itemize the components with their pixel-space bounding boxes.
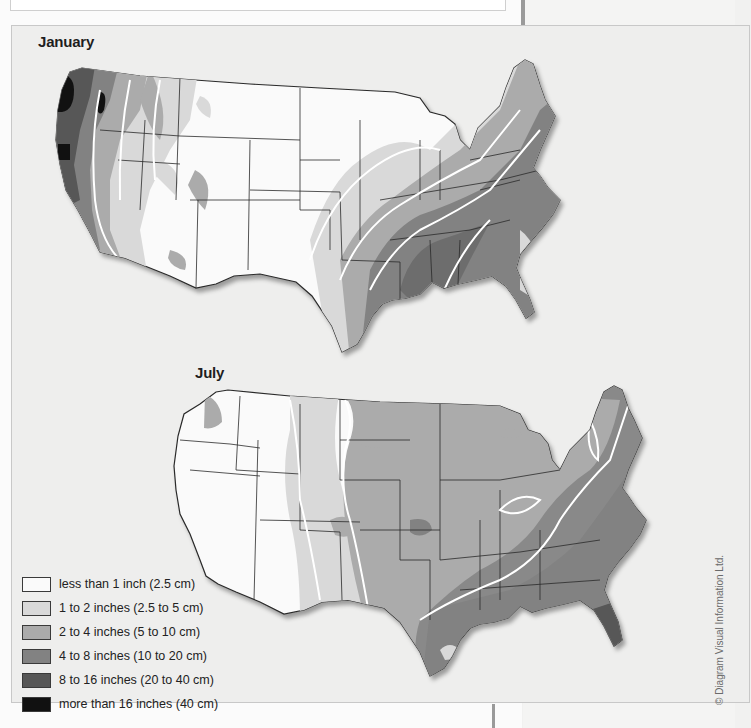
legend-label: more than 16 inches (40 cm) [59,697,218,711]
legend-label: 4 to 8 inches (10 to 20 cm) [59,649,207,663]
legend-item: 1 to 2 inches (2.5 to 5 cm) [22,596,218,620]
legend-swatch [22,673,51,688]
legend: less than 1 inch (2.5 cm) 1 to 2 inches … [22,572,218,716]
legend-label: less than 1 inch (2.5 cm) [59,577,195,591]
legend-swatch [22,601,51,616]
legend-label: 2 to 4 inches (5 to 10 cm) [59,625,200,639]
legend-item: 4 to 8 inches (10 to 20 cm) [22,644,218,668]
copyright-notice: © Diagram Visual Information Ltd. [714,555,725,705]
legend-swatch [22,625,51,640]
legend-item: 8 to 16 inches (20 to 40 cm) [22,668,218,692]
legend-label: 8 to 16 inches (20 to 40 cm) [59,673,214,687]
legend-item: 2 to 4 inches (5 to 10 cm) [22,620,218,644]
legend-item: more than 16 inches (40 cm) [22,692,218,716]
legend-item: less than 1 inch (2.5 cm) [22,572,218,596]
legend-label: 1 to 2 inches (2.5 to 5 cm) [59,601,204,615]
legend-swatch [22,697,51,712]
legend-swatch [22,577,51,592]
legend-swatch [22,649,51,664]
